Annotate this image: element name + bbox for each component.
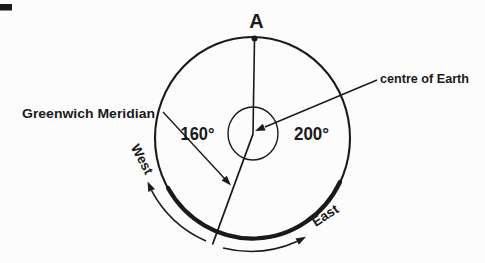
earth-circle-bold-arc	[168, 182, 340, 239]
angle-200-label: 200°	[294, 123, 329, 144]
greenwich-meridian-label: Greenwich Meridian	[22, 106, 155, 121]
angle-160-label: 160°	[181, 123, 215, 144]
west-arrowhead-icon	[148, 182, 155, 193]
point-a-label: A	[249, 10, 263, 32]
scan-artifact-mark	[0, 4, 12, 11]
west-direction-arrow	[148, 182, 207, 242]
centre-arrowhead-icon	[255, 124, 266, 131]
east-arc	[223, 242, 297, 252]
east-arrowhead-icon	[296, 237, 307, 245]
east-label: East	[309, 201, 342, 229]
greenwich-meridian-line	[213, 134, 254, 245]
west-label: West	[128, 142, 157, 178]
west-arc	[152, 191, 206, 241]
earth-meridian-diagram: A 160° 200° centre of Earth Greenwich Me…	[0, 0, 485, 263]
centre-arrow-line	[265, 80, 377, 127]
point-a-radius-line	[253, 39, 255, 135]
centre-of-earth-label: centre of Earth	[380, 71, 469, 86]
earth-meridian-diagram-page: A 160° 200° centre of Earth Greenwich Me…	[0, 0, 485, 263]
